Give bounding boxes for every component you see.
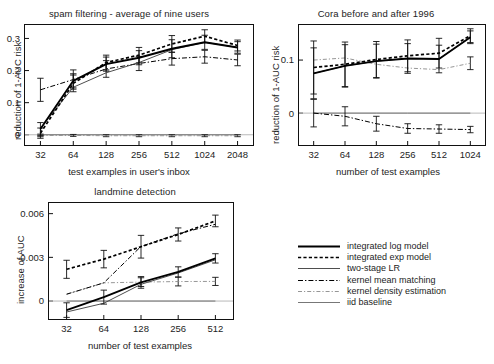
plot-area-cora: 00.132641282565121024 xyxy=(298,24,486,146)
svg-text:0.3: 0.3 xyxy=(7,33,20,44)
x-axis-label-spam-filtering: test examples in user's inbox xyxy=(24,166,234,177)
svg-text:0.2: 0.2 xyxy=(7,65,20,76)
legend-item-label: integrated exp model xyxy=(347,252,431,263)
y-axis-label-landmine: increase of AUC xyxy=(15,235,26,304)
legend-line-icon xyxy=(297,241,341,252)
y-axis-label-cora: reduction of 1-AUC risk xyxy=(270,46,281,144)
legend-line-icon xyxy=(297,275,341,286)
legend-item[interactable]: integrated exp model xyxy=(297,252,446,263)
legend-item-label: integrated log model xyxy=(347,241,429,252)
legend-line-icon xyxy=(297,297,341,308)
legend-line-icon xyxy=(297,252,341,263)
svg-text:256: 256 xyxy=(400,149,416,160)
svg-text:64: 64 xyxy=(340,149,351,160)
plot-area-landmine: 00.0030.0063264128256512 xyxy=(48,202,234,320)
legend-item[interactable]: kernel density estimation xyxy=(297,286,446,297)
panel-title-spam-filtering: spam filtering - average of nine users xyxy=(0,8,258,19)
svg-text:0.1: 0.1 xyxy=(281,54,294,65)
svg-text:0.1: 0.1 xyxy=(7,97,20,108)
x-axis-label-landmine: number of test examples xyxy=(40,340,240,351)
svg-text:2048: 2048 xyxy=(227,149,248,160)
legend-item-label: two-stage LR xyxy=(347,263,400,274)
svg-text:128: 128 xyxy=(98,149,114,160)
figure-canvas: spam filtering - average of nine users r… xyxy=(0,0,494,364)
plot-area-spam-filtering: 00.10.20.3326412825651210242048 xyxy=(24,24,254,146)
legend-item-label: kernel mean matching xyxy=(347,275,436,286)
svg-text:0.006: 0.006 xyxy=(20,208,44,219)
svg-text:32: 32 xyxy=(35,149,46,160)
svg-text:512: 512 xyxy=(164,149,180,160)
svg-text:1024: 1024 xyxy=(194,149,215,160)
svg-text:0: 0 xyxy=(15,129,20,140)
svg-text:0: 0 xyxy=(39,295,44,306)
legend-line-icon xyxy=(297,263,341,274)
svg-text:64: 64 xyxy=(68,149,79,160)
panel-landmine: landmine detection increase of AUC 00.00… xyxy=(0,186,280,364)
svg-text:128: 128 xyxy=(133,323,149,334)
x-axis-label-cora: number of test examples xyxy=(288,166,488,177)
svg-text:0: 0 xyxy=(289,108,294,119)
y-axis-label-spam-filtering: reduction of 1-AUC risk xyxy=(12,42,23,140)
svg-text:256: 256 xyxy=(131,149,147,160)
svg-text:512: 512 xyxy=(431,149,447,160)
panel-title-cora: Cora before and after 1996 xyxy=(258,8,494,19)
legend: integrated log model integrated exp mode… xyxy=(297,241,446,308)
panel-spam-filtering: spam filtering - average of nine users r… xyxy=(0,8,258,186)
legend-item[interactable]: kernel mean matching xyxy=(297,275,446,286)
svg-text:64: 64 xyxy=(99,323,110,334)
panel-cora: Cora before and after 1996 reduction of … xyxy=(258,8,494,186)
svg-text:512: 512 xyxy=(207,323,223,334)
svg-text:32: 32 xyxy=(308,149,319,160)
svg-text:0.003: 0.003 xyxy=(20,252,44,263)
legend-item-label: kernel density estimation xyxy=(347,286,446,297)
panel-title-landmine: landmine detection xyxy=(30,186,240,197)
legend-item[interactable]: integrated log model xyxy=(297,241,446,252)
svg-text:1024: 1024 xyxy=(460,149,481,160)
svg-text:128: 128 xyxy=(368,149,384,160)
legend-item-label: iid baseline xyxy=(347,297,392,308)
svg-text:32: 32 xyxy=(61,323,72,334)
legend-item[interactable]: two-stage LR xyxy=(297,263,446,274)
svg-text:256: 256 xyxy=(170,323,186,334)
legend-line-icon xyxy=(297,286,341,297)
legend-item[interactable]: iid baseline xyxy=(297,297,446,308)
